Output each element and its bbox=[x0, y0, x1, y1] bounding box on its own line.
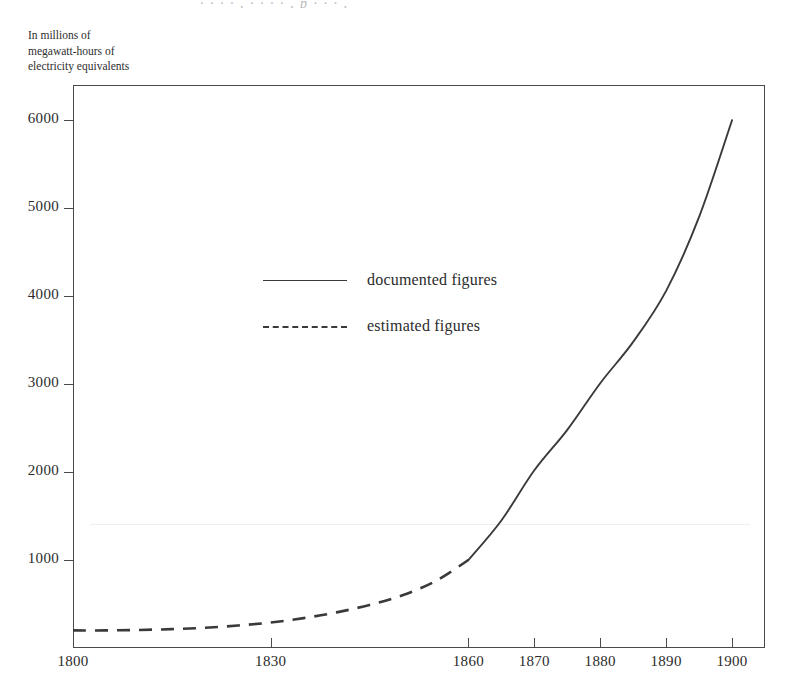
y-tick-label-2000: 2000 bbox=[28, 462, 59, 479]
y-axis-caption: In millions of megawatt-hours of electri… bbox=[28, 28, 129, 75]
y-tick-label-6000: 6000 bbox=[28, 110, 59, 127]
x-tick-label-1860: 1860 bbox=[453, 653, 484, 670]
x-tick-label-1800: 1800 bbox=[57, 653, 88, 670]
series-line-estimated bbox=[73, 560, 468, 630]
chart-curves bbox=[73, 85, 765, 648]
y-tick-label-4000: 4000 bbox=[28, 286, 59, 303]
x-tick-label-1900: 1900 bbox=[716, 653, 747, 670]
x-tick-label-1870: 1870 bbox=[519, 653, 550, 670]
y-tick-label-5000: 5000 bbox=[28, 198, 59, 215]
legend-label-estimated: estimated figures bbox=[367, 317, 480, 335]
series-line-documented bbox=[468, 120, 732, 560]
chart-figure: · · · · , · · · · , p · · · , In million… bbox=[0, 0, 793, 686]
x-tick-label-1890: 1890 bbox=[650, 653, 681, 670]
x-tick-label-1880: 1880 bbox=[585, 653, 616, 670]
legend-swatch-dashed-icon bbox=[263, 326, 347, 328]
y-tick-label-3000: 3000 bbox=[28, 374, 59, 391]
y-tick-label-1000: 1000 bbox=[28, 550, 59, 567]
x-tick-label-1830: 1830 bbox=[255, 653, 286, 670]
legend-swatch-solid-icon bbox=[263, 280, 347, 281]
top-cutoff-caption: · · · · , · · · · , p · · · , bbox=[200, 0, 620, 8]
legend-label-documented: documented figures bbox=[367, 271, 497, 289]
plot-area: 100020003000400050006000 180018301860187… bbox=[73, 85, 765, 648]
